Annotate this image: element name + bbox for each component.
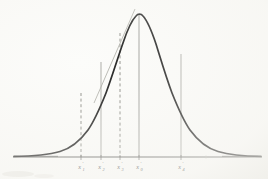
tick-label-4-base: x — [135, 163, 139, 170]
tick-label-3-sub: 3 — [121, 167, 123, 172]
tick-label-1-base: x — [77, 163, 81, 170]
tick-label-3-base: x — [116, 163, 120, 170]
bell-curve-figure: x ′ 1 x ′ 2 x ′ 3 x ′ 0 x ′ 4 — [0, 0, 268, 179]
tick-label-5-base: x — [177, 163, 181, 170]
figure-container: x ′ 1 x ′ 2 x ′ 3 x ′ 0 x ′ 4 — [0, 0, 268, 179]
tick-label-2-base: x — [97, 163, 101, 170]
tick-label-1-sub: 1 — [82, 167, 84, 172]
scan-smudge-secondary — [34, 174, 54, 178]
paper-background — [0, 0, 268, 179]
scan-smudge — [2, 171, 34, 177]
